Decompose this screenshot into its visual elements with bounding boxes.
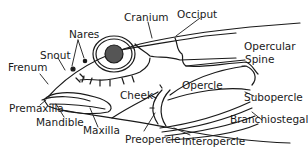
label-nares: Nares (69, 29, 99, 40)
label-preopercle: Preopercle (125, 134, 180, 145)
label-interopercle: Interopercle (182, 136, 245, 147)
label-opercular-spine-line1: Opercular (244, 41, 296, 52)
label-cheek: Cheek (120, 90, 153, 101)
label-mandible: Mandible (36, 117, 84, 128)
label-snout: Snout (40, 50, 71, 61)
label-subopercle: Subopercle (244, 92, 303, 103)
label-occiput: Occiput (177, 9, 217, 20)
label-opercular-spine-line2: Spine (245, 54, 274, 65)
fish-head-diagram: Cranium Occiput Nares Snout Frenum Operc… (0, 0, 308, 159)
label-frenum: Frenum (8, 62, 47, 73)
label-cranium: Cranium (124, 12, 169, 23)
label-opercle: Opercle (182, 80, 223, 91)
label-maxilla: Maxilla (83, 125, 120, 136)
label-branchiostegals: Branchiostegals (230, 114, 308, 125)
label-premaxilla: Premaxilla (9, 103, 64, 114)
